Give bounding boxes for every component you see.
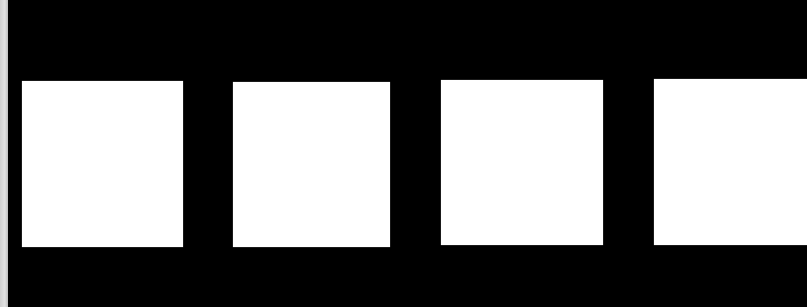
film-strip-scene	[0, 0, 807, 307]
white-square-2	[233, 82, 390, 247]
left-edge-strip	[0, 0, 8, 307]
white-square-3	[441, 80, 603, 245]
white-square-4	[654, 79, 807, 245]
white-square-1	[22, 81, 183, 247]
